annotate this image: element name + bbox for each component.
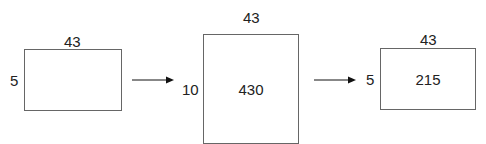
stage2-rectangle: 430 xyxy=(203,34,299,144)
arrow-right-icon xyxy=(132,75,174,85)
stage2-area-label: 430 xyxy=(238,81,263,98)
stage1-rectangle xyxy=(24,49,122,111)
stage3-rectangle: 215 xyxy=(380,48,476,110)
stage3-height-label: 5 xyxy=(366,72,374,87)
stage2-height-label: 10 xyxy=(182,82,199,97)
stage3-width-label: 43 xyxy=(420,32,437,47)
arrow-right-icon xyxy=(314,75,356,85)
stage1-width-label: 43 xyxy=(64,34,81,49)
stage1-height-label: 5 xyxy=(10,73,18,88)
stage3-area-label: 215 xyxy=(415,71,440,88)
stage2-width-label: 43 xyxy=(243,10,260,25)
